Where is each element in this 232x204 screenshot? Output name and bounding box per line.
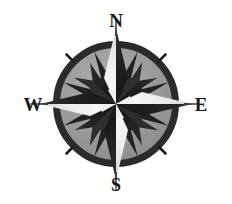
cardinal-label-south: S (0, 176, 232, 195)
cardinal-label-west: W (18, 95, 48, 114)
compass-rose-figure: N E S W (0, 0, 232, 204)
cardinal-label-east: E (186, 95, 216, 114)
cardinal-label-north: N (0, 11, 232, 30)
